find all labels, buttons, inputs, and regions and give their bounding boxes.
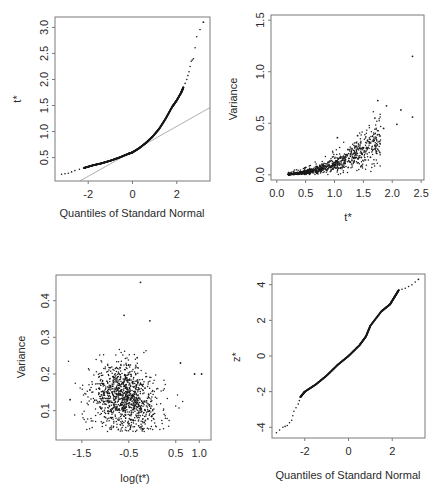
x-tick-label: 1.0 [327,187,342,199]
y-tick-label: 0.5 [254,116,266,131]
y-tick-label: 0.3 [39,330,51,345]
x-tick-label: 0.5 [298,187,313,199]
y-tick-label: 4 [255,282,267,288]
x-tick-label: 2.5 [413,187,428,199]
qq-plot-zstar: -202 -4-2024 Quantiles of Standard Norma… [230,274,425,481]
y-tick-label: 2.0 [38,72,50,87]
y-tick-label: 3.0 [38,20,50,35]
x-tick-label: 1.0 [192,447,207,459]
plot-frame [55,17,210,181]
x-tick-label: -2 [300,445,310,457]
x-tick-label: 2 [174,188,180,200]
y-tick-label: -2 [255,387,267,397]
y-tick-label: 1.0 [38,124,50,139]
x-tick-label: -1.5 [72,447,91,459]
x-tick-label: 2 [389,445,395,457]
x-ticks: -1.5-0.50.51.0 [72,440,207,459]
y-ticks: 0.51.01.52.02.53.0 [38,20,55,165]
data-points [61,21,205,175]
y-tick-label: 0.1 [39,403,51,418]
y-axis-label: z* [230,351,242,362]
x-tick-label: -0.5 [119,447,138,459]
y-tick-label: 1.0 [254,64,266,79]
x-tick-label: 0.5 [168,447,183,459]
y-tick-label: 2 [255,317,267,323]
x-axis-label: Quantiles of Standard Normal [60,207,205,219]
y-tick-label: 0.0 [254,167,266,182]
data-points [68,281,203,432]
y-tick-label: 2.5 [38,46,50,61]
x-tick-label: 0 [345,445,351,457]
x-tick-label: 0.0 [269,187,284,199]
y-tick-label: 1.5 [254,13,266,28]
y-ticks: 0.10.20.30.4 [39,293,56,418]
y-ticks: 0.00.51.01.5 [254,13,271,183]
y-tick-label: 0.2 [39,366,51,381]
scatter-variance-vs-tstar: 0.00.51.01.52.02.5 0.00.51.01.5 t* Varia… [227,13,429,223]
y-axis-label: t* [11,95,23,103]
x-tick-label: 1.5 [356,187,371,199]
data-points [276,278,420,433]
x-ticks: -202 [83,181,180,200]
x-axis-label: log(t*) [120,472,149,484]
plot-frame [56,275,211,440]
y-axis-label: Variance [15,336,27,379]
x-axis-label: t* [344,211,352,223]
y-tick-label: 0 [255,353,267,359]
y-ticks: -4-2024 [255,282,272,433]
y-tick-label: 1.5 [38,98,50,113]
y-axis-label: Variance [227,78,239,121]
qq-plot-tstar: -202 0.51.01.52.02.53.0 Quantiles of Sta… [11,17,210,219]
x-axis-label: Quantiles of Standard Normal [276,469,421,481]
y-tick-label: 0.5 [38,150,50,165]
x-ticks: -202 [300,438,395,457]
y-tick-label: 0.4 [39,293,51,308]
x-tick-label: 2.0 [385,187,400,199]
scatter-variance-vs-log-tstar: -1.5-0.50.51.0 0.10.20.30.4 log(t*) Vari… [15,275,211,484]
x-tick-label: -2 [83,188,93,200]
y-tick-label: -4 [255,422,267,432]
figure-canvas: -202 0.51.01.52.02.53.0 Quantiles of Sta… [0,0,438,500]
data-points [288,55,414,175]
x-ticks: 0.00.51.01.52.02.5 [269,180,429,199]
x-tick-label: 0 [129,188,135,200]
